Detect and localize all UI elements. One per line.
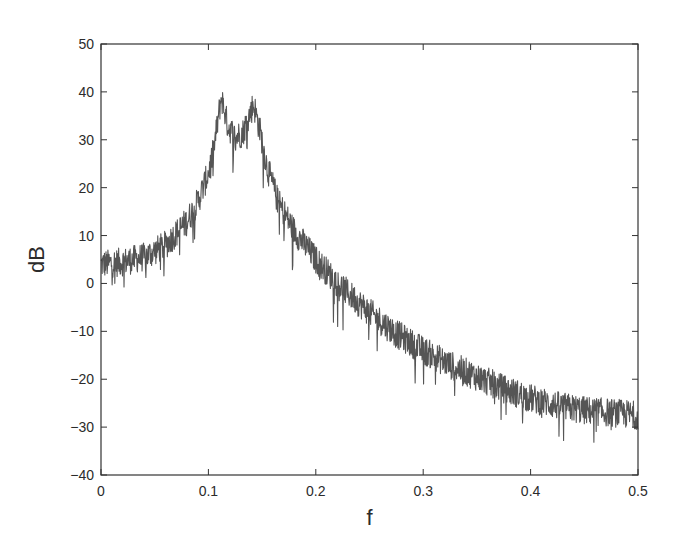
- x-tick-label: 0.4: [521, 483, 541, 499]
- y-tick-label: −10: [70, 323, 94, 339]
- x-axis-tick-labels: 00.10.20.30.40.5: [97, 483, 648, 499]
- y-tick-label: 40: [78, 84, 94, 100]
- y-tick-label: 50: [78, 36, 94, 52]
- x-tick-label: 0.5: [628, 483, 648, 499]
- y-tick-label: 0: [86, 275, 94, 291]
- y-axis-label: dB: [24, 246, 49, 273]
- y-tick-label: −40: [70, 467, 94, 483]
- y-tick-label: 10: [78, 228, 94, 244]
- x-tick-label: 0.2: [306, 483, 326, 499]
- x-tick-label: 0.3: [413, 483, 433, 499]
- x-axis-label: f: [366, 505, 373, 530]
- plot-area-frame: [101, 44, 638, 475]
- y-tick-label: 20: [78, 180, 94, 196]
- y-tick-label: −30: [70, 419, 94, 435]
- x-tick-label: 0: [97, 483, 105, 499]
- spectrum-chart: 00.10.20.30.40.5 −40−30−20−1001020304050…: [0, 0, 682, 551]
- y-tick-label: 30: [78, 132, 94, 148]
- y-axis-tick-labels: −40−30−20−1001020304050: [70, 36, 94, 483]
- axis-ticks: [101, 44, 638, 475]
- chart-svg: 00.10.20.30.40.5 −40−30−20−1001020304050…: [0, 0, 682, 551]
- x-tick-label: 0.1: [199, 483, 219, 499]
- y-tick-label: −20: [70, 371, 94, 387]
- spectrum-line: [101, 92, 638, 442]
